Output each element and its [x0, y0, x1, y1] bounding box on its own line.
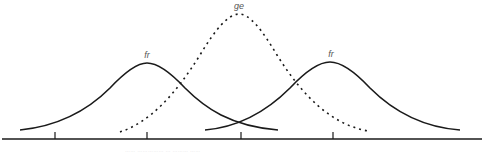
fr-left-curve	[20, 63, 278, 130]
ge-curve	[120, 14, 368, 132]
axis-ticks	[55, 132, 333, 139]
fr-right-curve	[205, 62, 460, 130]
ge-label: ge	[234, 1, 244, 11]
distribution-diagram: fr ge fr	[0, 0, 486, 156]
caption: …… …………… … ……… ……	[125, 147, 201, 153]
fr-left-label: fr	[144, 50, 151, 60]
fr-right-label: fr	[328, 49, 335, 59]
